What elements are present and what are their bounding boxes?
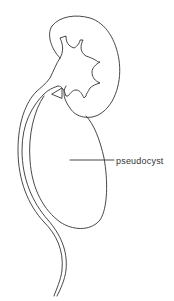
lower-calyx: [52, 88, 62, 98]
renal-pelvis: [44, 36, 100, 98]
pseudocyst-label: pseudocyst: [116, 156, 164, 166]
kidney-pseudocyst-diagram: [0, 0, 174, 301]
ureter-outer: [18, 92, 62, 296]
kidney-outline: [50, 16, 120, 117]
ureter-inner: [22, 94, 66, 296]
